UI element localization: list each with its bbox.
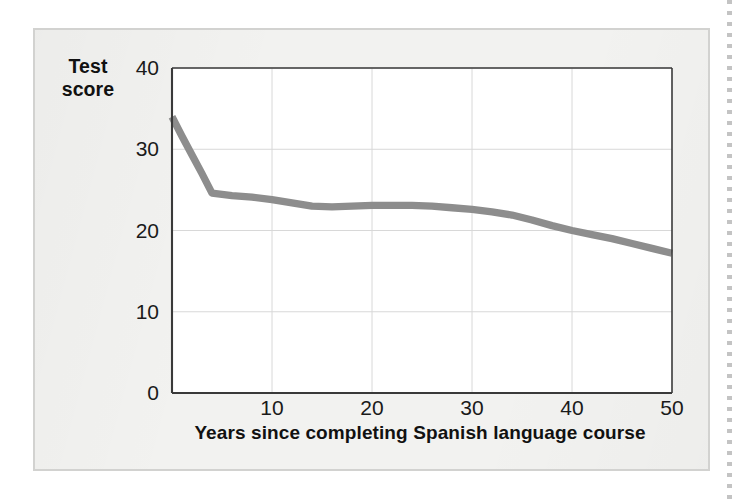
x-tick-label: 50: [642, 396, 702, 420]
y-tick-label: 30: [113, 137, 159, 161]
x-tick-label: 40: [542, 396, 602, 420]
x-axis-title: Years since completing Spanish language …: [140, 422, 700, 444]
y-tick-label: 20: [113, 219, 159, 243]
x-tick-label: 10: [242, 396, 302, 420]
x-tick-label: 30: [442, 396, 502, 420]
x-tick-label: 20: [342, 396, 402, 420]
y-tick-label: 10: [113, 300, 159, 324]
page-perforation-strip: [727, 0, 732, 502]
scanned-page: Test score 010203040 1020304050 Years si…: [0, 0, 745, 502]
y-tick-label: 40: [113, 56, 159, 80]
